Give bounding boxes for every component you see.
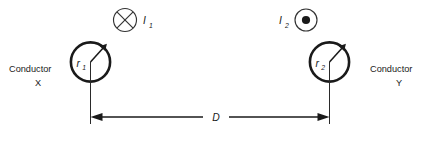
circle-dot-icon-center	[302, 16, 310, 24]
current-2-subscript: 2	[284, 22, 289, 29]
conductor-y-name-line1: Conductor	[370, 64, 412, 74]
current-2-label: I	[279, 15, 282, 26]
conductor-y-radius-subscript: 2	[320, 64, 325, 71]
current-symbol-2-group: I 2	[279, 9, 317, 31]
current-symbol-1-group: I 1	[114, 9, 154, 32]
conductor-y-name-line2: Y	[396, 78, 402, 88]
current-1-label: I	[143, 15, 146, 26]
conductor-x-radius-arrow-shaft	[91, 47, 104, 62]
current-1-subscript: 1	[149, 22, 153, 29]
conductor-x-radius-label: r	[77, 58, 81, 69]
separation-label: D	[212, 112, 220, 123]
conductor-y-group: r 2 Conductor Y	[310, 42, 412, 87]
conductor-x-group: r 1 Conductor X	[9, 42, 110, 87]
conductor-x-name-line2: X	[35, 78, 41, 88]
conductor-y-radius-arrow-shaft	[330, 47, 343, 62]
dimension-arrowhead-left	[91, 113, 103, 121]
physics-diagram-canvas: I 1 I 2 r 1 Conductor X r 2 C	[0, 0, 432, 143]
conductor-x-radius-subscript: 1	[82, 64, 86, 71]
separation-dimension-group: D	[91, 62, 330, 124]
conductor-y-radius-label: r	[316, 58, 320, 69]
diagram-svg: I 1 I 2 r 1 Conductor X r 2 C	[0, 0, 432, 143]
conductor-x-name-line1: Conductor	[9, 64, 51, 74]
dimension-arrowhead-right	[318, 113, 330, 121]
